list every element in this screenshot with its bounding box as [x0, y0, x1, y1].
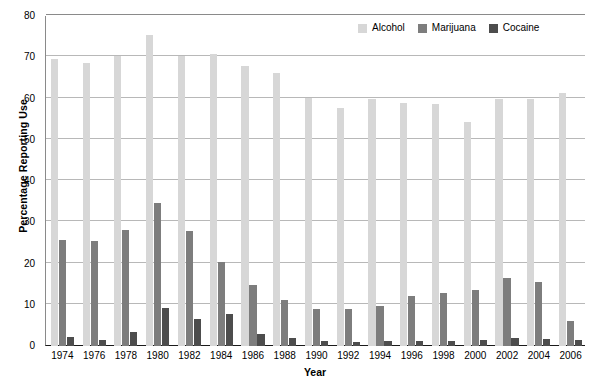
bar-cocaine-1984 [226, 314, 233, 346]
bar-cocaine-1988 [289, 338, 296, 346]
legend-label: Alcohol [372, 23, 405, 33]
bar-group [51, 16, 74, 346]
bar-marijuana-1994 [376, 306, 383, 346]
bar-marijuana-1996 [408, 296, 415, 346]
bar-marijuana-2002 [503, 278, 510, 346]
x-axis-title: Year [45, 366, 585, 378]
bar-group [337, 16, 360, 346]
bar-alcohol-1986 [241, 66, 248, 346]
bar-marijuana-1976 [91, 241, 98, 346]
y-tick-label: 0 [29, 341, 35, 351]
bar-group [241, 16, 264, 346]
y-tick-label: 50 [24, 135, 35, 145]
bar-alcohol-1982 [178, 56, 185, 346]
bar-alcohol-2006 [559, 93, 566, 346]
legend-label: Cocaine [503, 23, 540, 33]
bar-chart: Percentage Reporting Use 010203040506070… [0, 0, 595, 389]
bar-alcohol-1980 [146, 35, 153, 346]
bar-alcohol-2002 [495, 99, 502, 346]
bar-cocaine-1974 [67, 337, 74, 346]
legend-swatch-icon [489, 24, 498, 33]
bar-alcohol-1978 [114, 56, 121, 346]
x-tick-label: 1998 [432, 350, 454, 362]
bar-marijuana-1982 [186, 231, 193, 347]
legend-item-alcohol[interactable]: Alcohol [358, 23, 405, 33]
bar-alcohol-1974 [51, 59, 58, 346]
bar-group [83, 16, 106, 346]
x-tick-label: 1974 [51, 350, 73, 362]
bar-cocaine-2004 [543, 339, 550, 346]
chart-legend: AlcoholMarijuanaCocaine [358, 23, 539, 33]
y-tick-label: 30 [24, 217, 35, 227]
bar-marijuana-1980 [154, 203, 161, 346]
bar-group [146, 16, 169, 346]
bar-alcohol-1996 [400, 103, 407, 346]
bar-cocaine-1996 [416, 341, 423, 346]
legend-swatch-icon [418, 24, 427, 33]
bar-marijuana-1986 [249, 285, 256, 346]
x-tick-label: 1978 [115, 350, 137, 362]
legend-label: Marijuana [432, 23, 476, 33]
x-tick-label: 1976 [83, 350, 105, 362]
x-tick-label: 1982 [178, 350, 200, 362]
bar-marijuana-1990 [313, 309, 320, 346]
bar-cocaine-1976 [99, 340, 106, 346]
bar-cocaine-2000 [480, 340, 487, 346]
x-axis-tick-labels: 1974197619781980198219841986198819901992… [45, 350, 585, 366]
bar-alcohol-1984 [210, 54, 217, 346]
bar-group [178, 16, 201, 346]
bar-marijuana-2004 [535, 282, 542, 346]
bar-alcohol-1994 [368, 99, 375, 347]
bar-group [559, 16, 582, 346]
bar-marijuana-1974 [59, 240, 66, 346]
bar-marijuana-1998 [440, 293, 447, 346]
bar-group [273, 16, 296, 346]
legend-item-cocaine[interactable]: Cocaine [489, 23, 540, 33]
y-tick-label: 80 [24, 11, 35, 21]
x-tick-label: 1986 [242, 350, 264, 362]
bar-cocaine-1986 [257, 334, 264, 346]
bar-group [432, 16, 455, 346]
x-tick-label: 1992 [337, 350, 359, 362]
bar-cocaine-2002 [511, 338, 518, 346]
bar-group [400, 16, 423, 346]
bar-cocaine-1994 [384, 341, 391, 346]
gridline-80 [46, 14, 585, 15]
x-tick-label: 1980 [147, 350, 169, 362]
y-tick-label: 40 [24, 176, 35, 186]
x-tick-label: 2004 [528, 350, 550, 362]
bar-cocaine-1992 [353, 342, 360, 346]
x-tick-label: 1996 [401, 350, 423, 362]
bar-alcohol-1976 [83, 63, 90, 346]
bar-cocaine-1982 [194, 319, 201, 346]
bar-alcohol-1990 [305, 98, 312, 346]
bar-alcohol-1988 [273, 73, 280, 346]
legend-item-marijuana[interactable]: Marijuana [418, 23, 476, 33]
bar-cocaine-1998 [448, 341, 455, 346]
bar-group [527, 16, 550, 346]
bar-marijuana-1992 [345, 309, 352, 346]
bar-cocaine-1980 [162, 308, 169, 346]
bar-group [114, 16, 137, 346]
bar-alcohol-1998 [432, 104, 439, 346]
bars-layer [45, 16, 585, 346]
x-tick-label: 1994 [369, 350, 391, 362]
x-tick-label: 1990 [305, 350, 327, 362]
y-tick-label: 60 [24, 94, 35, 104]
x-tick-label: 2000 [464, 350, 486, 362]
bar-marijuana-1978 [122, 230, 129, 346]
bar-marijuana-2006 [567, 321, 574, 346]
y-tick-label: 20 [24, 259, 35, 269]
y-axis-tick-labels: 01020304050607080 [0, 16, 40, 346]
bar-marijuana-1984 [218, 262, 225, 346]
x-tick-label: 1988 [274, 350, 296, 362]
x-tick-label: 2006 [559, 350, 581, 362]
x-tick-label: 2002 [496, 350, 518, 362]
y-tick-label: 70 [24, 52, 35, 62]
bar-marijuana-1988 [281, 300, 288, 346]
bar-alcohol-1992 [337, 108, 344, 346]
bar-group [305, 16, 328, 346]
bar-group [368, 16, 391, 346]
bar-cocaine-1978 [130, 332, 137, 346]
x-tick-label: 1984 [210, 350, 232, 362]
